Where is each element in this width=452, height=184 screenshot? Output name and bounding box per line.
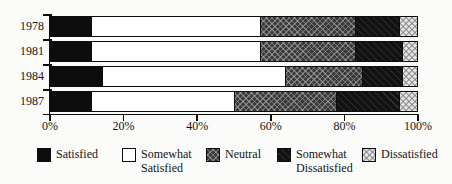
x-axis-label-100: 100% xyxy=(398,120,438,133)
x-axis-label-80: 80% xyxy=(324,120,364,133)
bar-segment-1984-satisfied xyxy=(51,67,102,86)
legend-item-neutral: Neutral xyxy=(206,147,261,162)
x-axis-label-60: 60% xyxy=(251,120,291,133)
bar-segment-1984-somewhat-dissatisfied xyxy=(362,67,402,86)
stacked-bar-chart: 1978198119841987 0%20%40%60%80%100% Sati… xyxy=(0,0,452,184)
legend-item-somewhat-satisfied: Somewhat Satisfied xyxy=(122,147,205,175)
category-label-1978: 1978 xyxy=(4,20,44,33)
bar-segment-1984-somewhat-satisfied xyxy=(102,67,285,86)
bar-segment-1981-somewhat-satisfied xyxy=(91,42,259,61)
bar-segment-1978-neutral xyxy=(260,17,355,36)
bar-segment-1978-dissatisfied xyxy=(399,17,417,36)
category-label-1981: 1981 xyxy=(4,45,44,58)
bar-segment-1981-dissatisfied xyxy=(402,42,417,61)
x-axis-label-0: 0% xyxy=(30,120,70,133)
bar-segment-1978-satisfied xyxy=(51,17,91,36)
legend-swatch-dark-crosshatch xyxy=(206,148,220,162)
bar-segment-1987-somewhat-satisfied xyxy=(91,92,234,111)
bar-segment-1978-somewhat-satisfied xyxy=(91,17,259,36)
legend-item-somewhat-dissatisfied: Somewhat Dissatisfied xyxy=(277,147,360,175)
bar-segment-1987-dissatisfied xyxy=(399,92,417,111)
bar-segment-1978-somewhat-dissatisfied xyxy=(355,17,399,36)
x-axis-label-40: 40% xyxy=(177,120,217,133)
category-label-1987: 1987 xyxy=(4,95,44,108)
bar-segment-1984-dissatisfied xyxy=(402,67,417,86)
x-axis-line xyxy=(49,114,419,116)
legend-label: Neutral xyxy=(225,147,261,161)
bar-1987 xyxy=(50,91,418,112)
bar-segment-1987-somewhat-dissatisfied xyxy=(336,92,398,111)
bar-segment-1984-neutral xyxy=(285,67,362,86)
bar-segment-1981-satisfied xyxy=(51,42,91,61)
bar-segment-1987-neutral xyxy=(234,92,336,111)
bar-1978 xyxy=(50,16,418,37)
x-axis-label-20: 20% xyxy=(104,120,144,133)
legend-item-dissatisfied: Dissatisfied xyxy=(362,147,438,162)
legend-swatch-white xyxy=(122,148,136,162)
bar-segment-1987-satisfied xyxy=(51,92,91,111)
legend-label: Somewhat Satisfied xyxy=(141,147,205,175)
legend-swatch-near-black xyxy=(277,148,291,162)
bar-segment-1981-somewhat-dissatisfied xyxy=(355,42,403,61)
bar-1984 xyxy=(50,66,418,87)
legend-label: Somewhat Dissatisfied xyxy=(296,147,360,175)
legend-item-satisfied: Satisfied xyxy=(37,147,98,162)
legend-swatch-light-checker xyxy=(362,148,376,162)
legend-swatch-solid-black xyxy=(37,148,51,162)
legend-label: Satisfied xyxy=(56,147,98,161)
category-label-1984: 1984 xyxy=(4,70,44,83)
bar-segment-1981-neutral xyxy=(260,42,355,61)
bar-1981 xyxy=(50,41,418,62)
legend-label: Dissatisfied xyxy=(381,147,438,161)
